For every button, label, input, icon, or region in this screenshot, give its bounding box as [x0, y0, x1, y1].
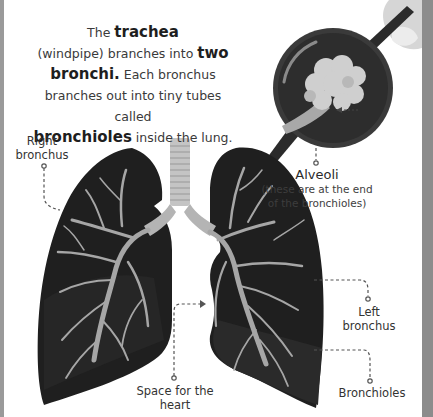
label-right-bronchus: Right bronchus — [14, 134, 70, 162]
label-bronchioles: Bronchioles — [334, 386, 410, 400]
label-line: Right — [14, 134, 70, 148]
intro-text-segment: (windpipe) branches into — [37, 46, 197, 61]
term-two: two — [197, 44, 228, 62]
label-line: Bronchioles — [334, 386, 410, 400]
label-note: of the bronchioles) — [254, 196, 380, 210]
label-line: bronchus — [14, 148, 70, 162]
label-line: Left — [338, 305, 400, 319]
term-bronchi: bronchi. — [50, 65, 120, 83]
intro-text-segment: branches out into tiny tubes called — [45, 88, 222, 124]
label-alveoli: Alveoli (these are at the end of the bro… — [254, 168, 380, 210]
term-trachea: trachea — [114, 23, 179, 41]
label-left-bronchus: Left bronchus — [338, 305, 400, 333]
label-line: bronchus — [338, 319, 400, 333]
magnifier-lens — [273, 28, 393, 148]
intro-text-segment: inside the lung. — [132, 130, 233, 145]
label-line: heart — [128, 398, 222, 412]
label-title: Alveoli — [254, 168, 380, 182]
intro-text-segment: Each bronchus — [120, 67, 216, 82]
label-note: (these are at the end — [254, 182, 380, 196]
right-lung — [38, 148, 172, 405]
heart-arrow-icon — [200, 300, 206, 308]
frame-border-right — [422, 0, 433, 417]
diagram-canvas: The trachea (windpipe) branches into two… — [4, 0, 422, 417]
intro-text-segment: The — [87, 25, 114, 40]
label-line: Space for the — [128, 384, 222, 398]
intro-text: The trachea (windpipe) branches into two… — [28, 22, 238, 148]
label-heart-space: Space for the heart — [128, 384, 222, 412]
